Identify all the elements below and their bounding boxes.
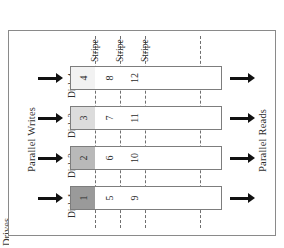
disk2-block-0-value: 2 [78,156,89,161]
disk3-block-0-value: 3 [78,116,89,121]
disk4-block-0: 4 [71,67,95,89]
write-arrow-3 [38,112,64,124]
disk2-block-1: 6 [96,147,121,169]
disk2-block-0: 2 [71,147,95,169]
disk3-block-1: 7 [96,107,121,129]
disk-bar-1: 1 5 9 [70,186,222,210]
parallel-reads-caption: Parallel Reads [258,109,269,172]
disk4-block-0-value: 4 [78,76,89,81]
disk4-block-2: 12 [121,67,146,89]
disk1-block-0: 1 [71,187,95,209]
disk3-block-1-value: 7 [103,116,114,121]
write-arrow-4 [38,72,64,84]
disk-bar-2: 2 6 10 [70,146,222,170]
read-arrow-2 [230,152,256,164]
disk1-block-2-value: 9 [128,196,139,201]
stripe-label-3: Stripe [141,39,151,62]
disk3-block-2: 11 [121,107,146,129]
write-arrow-2 [38,152,64,164]
write-arrow-1 [38,192,64,204]
disk3-block-0: 3 [71,107,95,129]
disk1-block-1: 5 [96,187,121,209]
disk-bar-4: 4 8 12 [70,66,222,90]
read-arrow-4 [230,72,256,84]
disk4-block-2-value: 12 [128,73,139,83]
disk3-block-2-value: 11 [128,113,139,123]
figure-root: Drives Parallel Writes Parallel Reads St… [0,0,284,248]
disk2-block-1-value: 6 [103,156,114,161]
disk4-block-1: 8 [96,67,121,89]
disk-bar-3: 3 7 11 [70,106,222,130]
stripe-label-2: Stripe [116,39,126,62]
disk4-block-1-value: 8 [103,76,114,81]
disk1-block-2: 9 [121,187,146,209]
parallel-writes-caption: Parallel Writes [27,107,38,172]
disk2-block-2-value: 10 [128,153,139,163]
stripe-label-1: Stripe [91,39,101,62]
disk1-block-0-value: 1 [78,196,89,201]
read-arrow-3 [230,112,256,124]
disk1-block-1-value: 5 [103,196,114,201]
disk2-block-2: 10 [121,147,146,169]
read-arrow-1 [230,192,256,204]
